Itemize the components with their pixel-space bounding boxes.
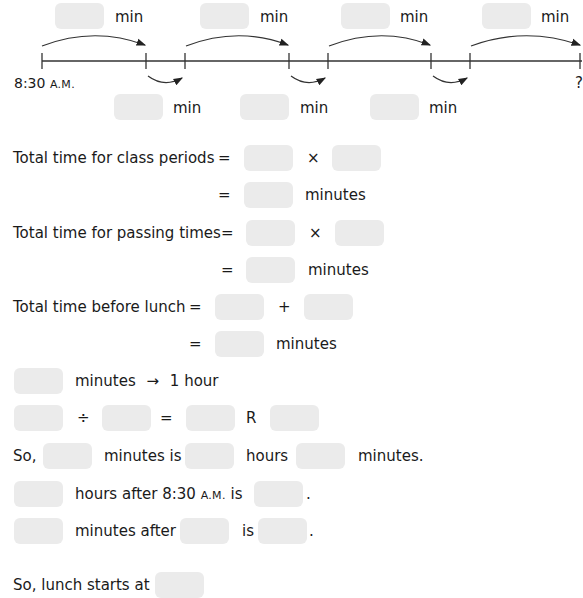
bottom-blank-3[interactable] <box>370 94 419 120</box>
passing-times-total-input[interactable] <box>246 257 295 283</box>
before-lunch-label: Total time before lunch <box>13 298 185 316</box>
minutes-per-hour-input[interactable] <box>14 368 63 394</box>
conversion-text: minutes → 1 hour <box>75 372 219 390</box>
top-unit-1: min <box>115 8 143 26</box>
minutes-unit: minutes <box>305 186 366 204</box>
quotient-input[interactable] <box>186 405 235 431</box>
dividend-input[interactable] <box>14 405 63 431</box>
is-text: is <box>242 522 254 540</box>
equals-sign: = <box>221 261 234 279</box>
hours-after-result-input[interactable] <box>254 481 303 507</box>
lunch-starts-text: So, lunch starts at <box>13 576 150 594</box>
hours-after-label: hours after 8:30 <box>75 485 196 503</box>
minutes-unit: minutes <box>276 335 337 353</box>
class-periods-count-input[interactable] <box>244 145 293 171</box>
right-arrow-icon: → <box>147 372 160 390</box>
minutes-after-result-input[interactable] <box>258 518 307 544</box>
start-time-label: 8:30 A.M. <box>14 74 75 94</box>
minutes-is-text: minutes is <box>104 447 181 465</box>
minutes-after-input[interactable] <box>14 518 63 544</box>
one-hour-text: 1 hour <box>170 372 219 390</box>
equals-sign: = <box>189 298 202 316</box>
hours-after-input[interactable] <box>14 481 63 507</box>
start-time: 8:30 <box>14 75 45 91</box>
before-lunch-addend-1-input[interactable] <box>215 294 264 320</box>
divide-sign: ÷ <box>77 409 90 427</box>
bottom-unit-3: min <box>429 99 457 117</box>
passing-time-length-input[interactable] <box>335 220 384 246</box>
bottom-blank-1[interactable] <box>114 94 163 120</box>
bottom-blank-2[interactable] <box>240 94 289 120</box>
class-period-length-input[interactable] <box>332 145 381 171</box>
minutes-after-start-input[interactable] <box>180 518 229 544</box>
top-blank-2[interactable] <box>200 3 249 29</box>
minutes-period-text: minutes. <box>358 447 424 465</box>
equals-sign: = <box>221 224 234 242</box>
bottom-unit-1: min <box>173 99 201 117</box>
equals-sign: = <box>218 186 231 204</box>
before-lunch-addend-2-input[interactable] <box>304 294 353 320</box>
top-blank-4[interactable] <box>482 3 531 29</box>
bottom-unit-2: min <box>300 99 328 117</box>
equals-sign: = <box>189 335 202 353</box>
am-suffix: A.M. <box>201 489 226 502</box>
lunch-start-input[interactable] <box>155 572 204 598</box>
hours-text: hours <box>246 447 288 465</box>
passing-times-count-input[interactable] <box>246 220 295 246</box>
start-time-suffix: A.M. <box>50 78 75 91</box>
minutes-after-text: minutes after <box>75 522 176 540</box>
before-lunch-total-input[interactable] <box>215 331 264 357</box>
top-blank-1[interactable] <box>55 3 104 29</box>
class-periods-total-input[interactable] <box>244 182 293 208</box>
top-unit-4: min <box>541 8 569 26</box>
top-unit-2: min <box>260 8 288 26</box>
divisor-input[interactable] <box>102 405 151 431</box>
hours-after-text: hours after 8:30 A.M. is <box>75 485 242 505</box>
equals-sign: = <box>218 149 231 167</box>
so-hours-input[interactable] <box>185 443 234 469</box>
period: . <box>309 522 314 540</box>
times-sign: × <box>307 149 320 167</box>
is-text: is <box>230 485 242 503</box>
minutes-text: minutes <box>75 372 136 390</box>
remainder-label: R <box>246 409 256 427</box>
passing-times-label: Total time for passing times <box>13 224 221 242</box>
class-periods-label: Total time for class periods <box>13 149 214 167</box>
top-blank-3[interactable] <box>341 3 390 29</box>
top-unit-3: min <box>400 8 428 26</box>
equals-sign: = <box>160 409 173 427</box>
so-minutes-input[interactable] <box>43 443 92 469</box>
times-sign: × <box>309 224 322 242</box>
end-time-unknown: ? <box>575 74 583 92</box>
minutes-unit: minutes <box>308 261 369 279</box>
period: . <box>306 485 311 503</box>
so-remaining-minutes-input[interactable] <box>296 443 345 469</box>
plus-sign: + <box>278 298 291 316</box>
so-text: So, <box>13 447 36 465</box>
remainder-input[interactable] <box>270 405 319 431</box>
